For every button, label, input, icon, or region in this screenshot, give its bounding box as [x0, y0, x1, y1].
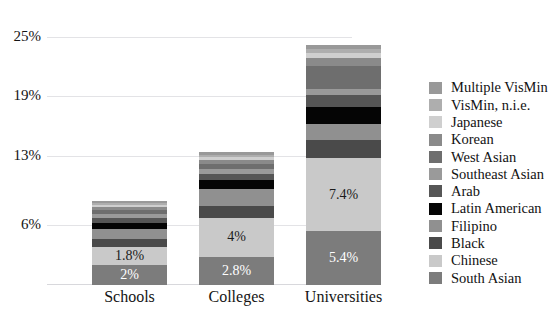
legend-swatch-icon	[429, 185, 442, 197]
legend-item[interactable]: Black	[429, 235, 554, 252]
legend-swatch-icon	[429, 272, 442, 284]
bar-segment[interactable]	[199, 174, 274, 180]
legend-item[interactable]: South Asian	[429, 269, 554, 286]
legend-swatch-icon	[429, 237, 442, 249]
legend-label: South Asian	[451, 271, 522, 286]
bar-segment[interactable]	[199, 157, 274, 160]
plot-area: 2%1.8%2.8%4%5.4%7.4%	[47, 22, 352, 285]
legend-label: Arab	[451, 184, 480, 199]
bar-segment[interactable]	[306, 89, 381, 96]
bar-segment[interactable]	[306, 58, 381, 66]
y-axis-tick-label: 13%	[0, 148, 41, 163]
bar-segment[interactable]	[199, 169, 274, 174]
legend-item[interactable]: VisMin, n.i.e.	[429, 96, 554, 113]
legend-label: Latin American	[451, 201, 542, 216]
x-axis-labels: SchoolsCollegesUniversities	[47, 288, 352, 310]
bar-segment[interactable]	[92, 207, 167, 210]
y-axis-tick-label: 6%	[0, 217, 41, 232]
bar-segment[interactable]	[306, 45, 381, 49]
legend-swatch-icon	[429, 255, 442, 267]
legend-label: VisMin, n.i.e.	[451, 98, 530, 113]
bar-segment[interactable]	[92, 229, 167, 239]
legend-swatch-icon	[429, 203, 442, 215]
legend-label: Filipino	[451, 219, 497, 234]
bar-segment[interactable]	[306, 124, 381, 140]
x-axis-label-universities: Universities	[286, 288, 401, 306]
bar-segment[interactable]: 2%	[92, 265, 167, 285]
bar-segment[interactable]	[306, 66, 381, 89]
bar-segment[interactable]	[92, 218, 167, 223]
legend-item[interactable]: Arab	[429, 183, 554, 200]
bar-segment[interactable]	[199, 160, 274, 164]
bar-segment[interactable]: 4%	[199, 218, 274, 258]
bar-segment[interactable]	[306, 49, 381, 53]
legend-label: Korean	[451, 132, 494, 147]
bar-segment-value-label: 5.4%	[306, 251, 381, 265]
chart-title	[150, 0, 350, 3]
bar-segment-value-label: 1.8%	[92, 249, 167, 263]
bar-segment[interactable]	[92, 214, 167, 218]
bar-segment[interactable]: 7.4%	[306, 158, 381, 231]
legend-swatch-icon	[429, 168, 442, 180]
bar-segment[interactable]	[199, 164, 274, 169]
bar-schools[interactable]: 2%1.8%	[92, 201, 167, 285]
legend-label: Chinese	[451, 253, 498, 268]
gridline	[47, 37, 352, 38]
bar-segment-value-label: 4%	[199, 230, 274, 244]
y-axis-labels: 6%13%19%25%	[0, 22, 45, 285]
y-axis-tick-label: 19%	[0, 88, 41, 103]
legend-item[interactable]: Japanese	[429, 114, 554, 131]
legend-label: Black	[451, 236, 485, 251]
bar-segment[interactable]	[306, 95, 381, 107]
legend-label: Multiple VisMin	[451, 80, 548, 95]
bar-segment[interactable]	[92, 205, 167, 207]
legend-swatch-icon	[429, 116, 442, 128]
legend-label: Japanese	[451, 115, 503, 130]
legend-item[interactable]: Chinese	[429, 252, 554, 269]
legend-label: Southeast Asian	[451, 167, 544, 182]
legend-swatch-icon	[429, 99, 442, 111]
legend-item[interactable]: Latin American	[429, 200, 554, 217]
bar-segment[interactable]	[306, 140, 381, 158]
stacked-bar-chart: 6%13%19%25% 2%1.8%2.8%4%5.4%7.4% Schools…	[0, 0, 554, 312]
bar-segment[interactable]	[92, 239, 167, 247]
bar-segment[interactable]	[199, 206, 274, 218]
bar-segment[interactable]	[92, 210, 167, 214]
bar-segment-value-label: 2.8%	[199, 264, 274, 278]
x-axis-label-colleges: Colleges	[179, 288, 294, 306]
bar-segment[interactable]	[92, 223, 167, 230]
legend-item[interactable]: Filipino	[429, 217, 554, 234]
bar-segment[interactable]	[306, 107, 381, 124]
legend-item[interactable]: Southeast Asian	[429, 165, 554, 182]
legend-swatch-icon	[429, 220, 442, 232]
legend-swatch-icon	[429, 151, 442, 163]
bar-segment[interactable]: 1.8%	[92, 247, 167, 265]
legend-swatch-icon	[429, 134, 442, 146]
legend-item[interactable]: Multiple VisMin	[429, 79, 554, 96]
bar-segment[interactable]	[306, 53, 381, 58]
bar-segment[interactable]	[199, 155, 274, 157]
bar-segment[interactable]: 5.4%	[306, 231, 381, 285]
x-axis-label-schools: Schools	[72, 288, 187, 306]
bar-segment[interactable]	[199, 180, 274, 189]
bar-segment-value-label: 2%	[92, 268, 167, 282]
legend-swatch-icon	[429, 82, 442, 94]
legend-label: West Asian	[451, 150, 516, 165]
y-axis-tick-label: 25%	[0, 29, 41, 44]
legend-item[interactable]: West Asian	[429, 148, 554, 165]
bar-segment[interactable]	[92, 201, 167, 203]
bar-segment[interactable]: 2.8%	[199, 257, 274, 285]
legend: Multiple VisMinVisMin, n.i.e.JapaneseKor…	[429, 79, 554, 287]
legend-item[interactable]: Korean	[429, 131, 554, 148]
bar-segment[interactable]	[199, 189, 274, 206]
bar-segment-value-label: 7.4%	[306, 188, 381, 202]
bar-segment[interactable]	[199, 152, 274, 155]
bar-colleges[interactable]: 2.8%4%	[199, 152, 274, 285]
bar-universities[interactable]: 5.4%7.4%	[306, 45, 381, 285]
bar-segment[interactable]	[92, 203, 167, 205]
